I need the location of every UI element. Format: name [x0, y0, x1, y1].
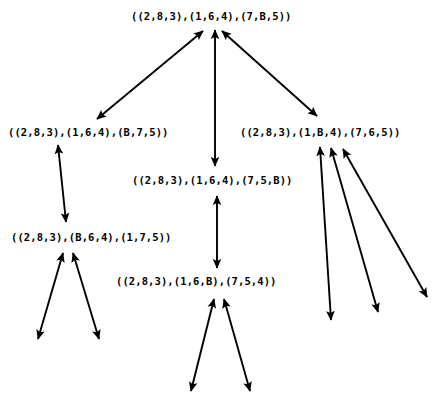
edge-bottomcenter-fringe-left — [191, 299, 214, 391]
diagram-canvas: ((2,8,3),(1,6,4),(7,B,5)) ((2,8,3),(1,6,… — [0, 0, 436, 398]
edge-root-left — [97, 31, 203, 119]
node-right: ((2,8,3),(1,B,4),(7,6,5)) — [240, 126, 401, 138]
edge-root-right — [222, 31, 317, 116]
node-center: ((2,8,3),(1,6,4),(7,5,B)) — [132, 174, 293, 186]
edge-group — [38, 30, 427, 391]
edge-lowerleft-fringe-right — [73, 253, 99, 339]
node-bottom-center: ((2,8,3),(1,6,B),(7,5,4)) — [116, 275, 277, 287]
edge-bottomcenter-fringe-right — [224, 299, 250, 391]
node-left: ((2,8,3),(1,6,4),(B,7,5)) — [8, 126, 169, 138]
edge-layer — [0, 0, 436, 398]
edge-right-fringe-b — [331, 148, 378, 312]
edge-right-fringe-c — [343, 149, 427, 297]
node-root: ((2,8,3),(1,6,4),(7,B,5)) — [131, 10, 292, 22]
node-lower-left: ((2,8,3),(B,6,4),(1,7,5)) — [11, 231, 172, 243]
edge-left-lowerleft — [58, 145, 66, 222]
edge-right-fringe-a — [320, 147, 331, 320]
edge-lowerleft-fringe-left — [38, 253, 63, 339]
